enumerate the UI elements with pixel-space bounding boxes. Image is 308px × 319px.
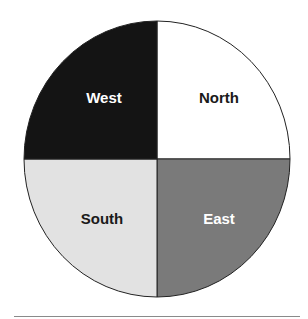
label-west: West: [86, 89, 122, 106]
label-south: South: [81, 210, 124, 227]
label-east: East: [203, 210, 235, 227]
bottom-divider: [14, 316, 300, 317]
label-north: North: [199, 89, 239, 106]
pie-chart: West North South East: [0, 0, 308, 319]
slice-east: [157, 159, 290, 297]
slice-south: [24, 159, 157, 297]
